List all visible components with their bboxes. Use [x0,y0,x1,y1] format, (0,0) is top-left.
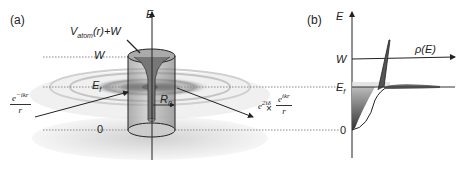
level-w-label-a: W [94,50,104,61]
energy-axis-label-b: E [336,11,343,22]
times-sign: × [266,104,272,114]
dos-label: ρ(E) [415,44,436,55]
radius-label: R0 [160,94,172,107]
panel-a-label: (a) [10,14,25,26]
potential-label: Vatom(r)+W [70,26,121,39]
incoming-wave-formula: e−ikr r [10,92,31,115]
level-w-label-b: W [336,54,346,65]
energy-axis-label-a: E [146,9,153,20]
figure: (a) E Vatom(r)+W W Ef 0 R0 e−ikr r e2iδ … [0,0,465,174]
dos-plot [352,12,455,158]
level-zero-label-a: 0 [97,124,103,135]
level-ef-label-b: Ef [336,82,345,95]
panel-b-label: (b) [307,14,322,26]
outgoing-wave-formula: eikr r [276,93,292,116]
level-zero-label-b: 0 [340,125,346,136]
level-ef-label-a: Ef [92,80,101,93]
